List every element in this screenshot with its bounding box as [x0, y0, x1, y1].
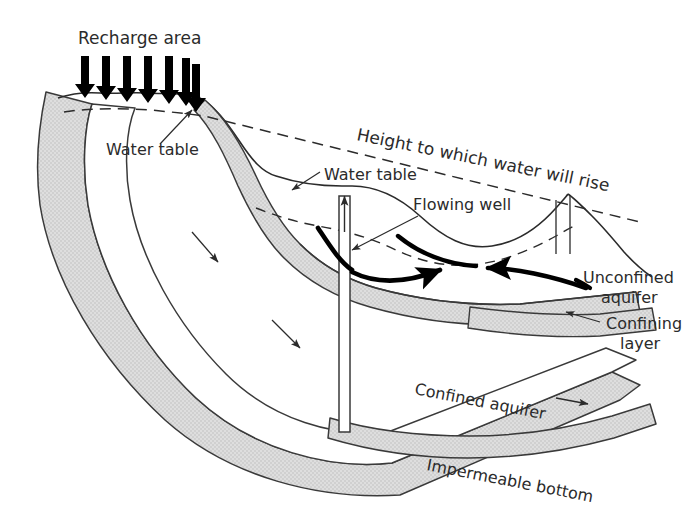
flowing-well	[339, 196, 350, 432]
figure-canvas: Recharge area Water table Water table He…	[0, 0, 697, 524]
label-water-table-left: Water table	[106, 140, 199, 159]
label-unconfined-aquifer-line1: Unconfined	[583, 268, 674, 287]
label-flowing-well: Flowing well	[413, 195, 511, 214]
label-water-table-mid: Water table	[324, 165, 417, 184]
label-recharge-area: Recharge area	[78, 28, 201, 48]
label-unconfined-aquifer-line2: aquifer	[601, 288, 658, 307]
label-confining-layer-line2: layer	[620, 334, 661, 353]
label-confining-layer-line1: Confining	[606, 314, 682, 333]
